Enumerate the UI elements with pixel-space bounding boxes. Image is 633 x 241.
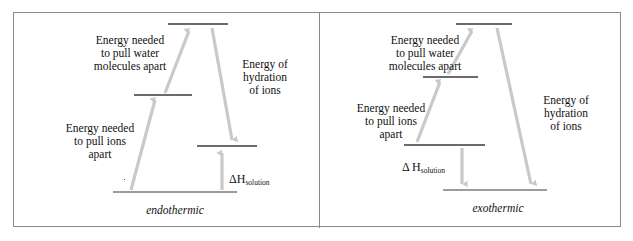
label-energy-pull-water: Energy needed to pull water molecules ap… (360, 34, 490, 74)
label-energy-pull-ions: Energy needed to pull ions apart (35, 122, 165, 162)
caption-endothermic: endothermic (125, 204, 225, 216)
delta-h-symbol: Δ H (402, 160, 421, 174)
delta-h-solution-label: Δ Hsolution (402, 160, 445, 175)
panel-exothermic: Energy needed to pull water molecules ap… (320, 12, 621, 227)
label-energy-pull-ions: Energy needed to pull ions apart (326, 102, 456, 142)
panel-endothermic: Energy needed to pull water molecules ap… (13, 12, 320, 227)
label-energy-pull-water: Energy needed to pull water molecules ap… (65, 34, 195, 74)
energy-diagram-figure: Energy needed to pull water molecules ap… (0, 0, 633, 241)
label-energy-hydration: Energy of hydration of ions (222, 58, 308, 98)
caption-exothermic: exothermic (448, 202, 548, 214)
delta-h-subscript: solution (245, 178, 269, 187)
delta-h-subscript: solution (421, 166, 445, 175)
delta-h-solution-label: ΔHsolution (229, 172, 270, 187)
stray-speck (124, 179, 125, 180)
label-energy-hydration: Energy of hydration of ions (523, 94, 609, 134)
delta-h-symbol: ΔH (229, 172, 245, 186)
